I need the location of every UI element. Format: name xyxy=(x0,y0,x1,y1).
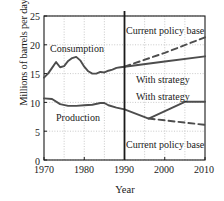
chart-figure: Millions of barrels per day 0 5 10 15 20… xyxy=(0,0,224,201)
x-tick-2010: 2010 xyxy=(182,164,224,175)
annotation-production: Production xyxy=(56,113,100,123)
annotation-strategy-top: With strategy xyxy=(136,75,190,85)
x-tick-1990: 1990 xyxy=(102,164,146,175)
annotation-policy-base-bottom: Current policy base xyxy=(126,140,204,150)
annotation-policy-base-top: Current policy base xyxy=(126,26,204,36)
annotation-strategy-bottom: With strategy xyxy=(136,92,190,102)
x-tick-2000: 2000 xyxy=(142,164,186,175)
x-axis-label: Year xyxy=(44,184,206,195)
annotation-consumption: Consumption xyxy=(50,44,104,54)
x-tick-1970: 1970 xyxy=(22,164,66,175)
x-tick-1980: 1980 xyxy=(62,164,106,175)
